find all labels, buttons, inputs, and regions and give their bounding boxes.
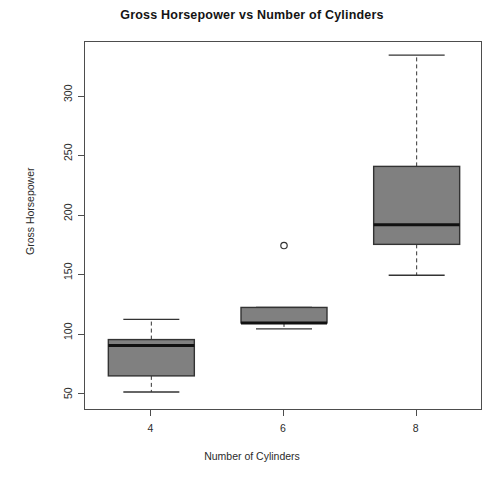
plot-canvas [85,42,483,411]
y-axis-title: Gross Horsepower [24,167,36,255]
box-group-6 [241,242,327,329]
x-tick-mark [416,410,417,416]
y-tick-label: 300 [68,93,80,111]
x-tick-label: 6 [263,422,303,434]
y-tick-label: 150 [68,272,80,290]
box-iqr[interactable] [374,166,460,244]
x-axis-title: Number of Cylinders [0,450,504,462]
plot-area [84,41,482,410]
x-tick-mark [283,410,284,416]
x-axis: Number of Cylinders 468 [0,410,504,486]
box-iqr[interactable] [241,307,327,322]
y-tick-label: 100 [68,331,80,349]
outlier-point[interactable] [281,242,287,248]
y-tick-label: 200 [68,212,80,230]
box-group-4 [108,319,194,392]
boxplot-figure: Gross Horsepower vs Number of Cylinders … [0,0,504,486]
y-tick-label: 250 [68,153,80,171]
x-tick-mark [150,410,151,416]
x-tick-label: 4 [130,422,170,434]
box-group-8 [374,55,460,275]
y-tick-label: 50 [68,393,80,405]
x-tick-label: 8 [396,422,436,434]
